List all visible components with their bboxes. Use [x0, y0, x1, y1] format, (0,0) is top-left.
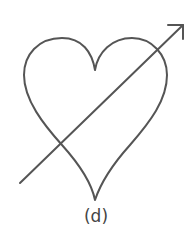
heart-arrow-diagram — [0, 0, 192, 237]
figure-label: (d) — [0, 206, 192, 226]
